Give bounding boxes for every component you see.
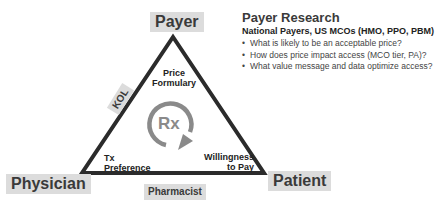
payer-research-panel: Payer Research National Payers, US MCOs … [242,10,438,73]
bullet-item: What value message and data optimize acc… [242,61,438,73]
node-physician: Physician [6,174,91,194]
bullet-item: What is likely to be an acceptable price… [242,38,438,50]
label-willingness-to-pay: Willingness to Pay [190,152,254,172]
label-price-formulary: Price Formulary [151,68,197,88]
bullet-item: How does price impact access (MCO tier, … [242,50,438,62]
panel-title: Payer Research [242,10,438,25]
label-tx: Tx [104,153,151,163]
label-willingness: Willingness [190,152,254,162]
label-to-pay: to Pay [190,162,254,172]
label-price: Price [151,68,197,78]
label-tx-preference: Tx Preference [104,153,151,173]
label-formulary: Formulary [151,78,197,88]
bullet-list: What is likely to be an acceptable price… [242,38,438,73]
panel-subtitle: National Payers, US MCOs (HMO, PPO, PBM) [242,26,438,37]
node-patient: Patient [268,171,331,191]
node-pharmacist: Pharmacist [144,184,206,200]
node-payer: Payer [150,12,204,32]
rx-label: Rx [158,114,180,134]
label-preference: Preference [104,163,151,173]
